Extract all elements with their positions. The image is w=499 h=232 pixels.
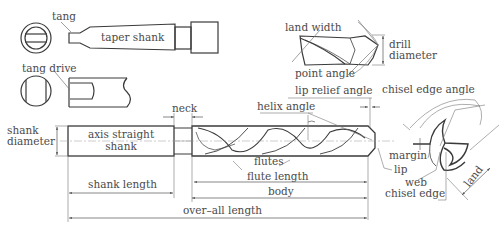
chisel-edge-angle-label: chisel edge angle xyxy=(382,84,475,95)
tang-drive-end-icon xyxy=(21,76,51,106)
drill-nomenclature-diagram: tang taper shank tang drive land width d… xyxy=(0,0,499,232)
helix-angle-label: helix angle xyxy=(257,101,315,112)
taper-shank-end-icon xyxy=(21,23,51,53)
taper-shank-label: taper shank xyxy=(101,32,164,43)
point-angle-label: point angle xyxy=(295,68,355,79)
axis-straight-label-1: axis straight xyxy=(68,129,174,140)
tang-drive-label: tang drive xyxy=(22,63,77,74)
flutes-label: flutes xyxy=(254,156,284,167)
axis-straight-label-2: shank xyxy=(68,141,174,152)
tang-label: tang xyxy=(52,11,76,22)
lip-label: lip xyxy=(394,164,407,175)
chisel-edge-label: chisel edge xyxy=(385,188,445,199)
flute-length-label: flute length xyxy=(247,171,309,182)
point-detail-icon xyxy=(300,36,378,65)
lip-relief-angle-label: lip relief angle xyxy=(295,85,372,96)
margin-label: margin xyxy=(389,150,427,161)
body-label: body xyxy=(268,186,294,197)
neck-label: neck xyxy=(172,103,197,114)
tang-drive-body-icon xyxy=(69,78,131,107)
drill-diameter-label-2: diameter xyxy=(389,50,437,61)
shank-diameter-label-2: diameter xyxy=(7,136,55,147)
land-width-label: land width xyxy=(285,22,342,33)
shank-length-label: shank length xyxy=(88,179,157,190)
overall-length-label: over–all length xyxy=(183,205,262,216)
